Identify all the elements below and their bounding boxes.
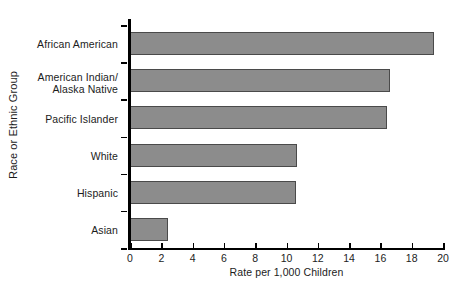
x-tick-label-2: 2 xyxy=(148,252,174,264)
x-tick-label-16: 16 xyxy=(367,252,393,264)
x-axis-title: Rate per 1,000 Children xyxy=(130,266,443,278)
category-label-asian: Asian xyxy=(20,224,118,236)
bar-white xyxy=(130,144,297,167)
x-tick-label-6: 6 xyxy=(211,252,237,264)
bar-african-american xyxy=(130,32,434,55)
x-tick-14 xyxy=(349,243,351,248)
bar-chart-figure: Race or Ethnic Group African American Am… xyxy=(0,0,475,293)
category-label-american-indian-line1: American Indian/ xyxy=(20,71,118,83)
x-tick-8 xyxy=(255,243,257,248)
y-tick-0 xyxy=(121,25,127,27)
bar-american-indian-alaska-native xyxy=(130,69,390,92)
x-axis-line xyxy=(128,248,445,251)
y-tick-6 xyxy=(121,248,127,250)
plot-area xyxy=(130,25,443,248)
x-tick-0 xyxy=(130,243,132,248)
bar-asian xyxy=(130,218,168,241)
x-tick-label-14: 14 xyxy=(336,252,362,264)
x-tick-label-0: 0 xyxy=(117,252,143,264)
x-tick-6 xyxy=(224,243,226,248)
x-tick-label-4: 4 xyxy=(180,252,206,264)
category-label-white: White xyxy=(20,150,118,162)
y-tick-3 xyxy=(121,137,127,139)
y-tick-2 xyxy=(121,99,127,101)
x-tick-10 xyxy=(287,243,289,248)
x-tick-label-8: 8 xyxy=(242,252,268,264)
x-tick-label-10: 10 xyxy=(274,252,300,264)
x-tick-12 xyxy=(318,243,320,248)
y-axis-title-text: Race or Ethnic Group xyxy=(7,71,19,179)
x-tick-2 xyxy=(161,243,163,248)
x-tick-label-20: 20 xyxy=(430,252,456,264)
bar-hispanic xyxy=(130,181,296,204)
category-label-hispanic: Hispanic xyxy=(20,187,118,199)
x-tick-label-12: 12 xyxy=(305,252,331,264)
category-label-pacific-islander: Pacific Islander xyxy=(20,113,118,125)
y-tick-1 xyxy=(121,62,127,64)
category-axis-labels: African American American Indian/ Alaska… xyxy=(20,25,118,248)
y-axis-line xyxy=(128,19,131,250)
x-tick-18 xyxy=(412,243,414,248)
y-tick-4 xyxy=(121,174,127,176)
category-label-african-american: African American xyxy=(20,38,118,50)
x-tick-16 xyxy=(380,243,382,248)
category-label-american-indian-line2: Alaska Native xyxy=(20,83,118,95)
bar-pacific-islander xyxy=(130,106,387,129)
x-tick-20 xyxy=(443,243,445,248)
x-tick-4 xyxy=(193,243,195,248)
y-tick-5 xyxy=(121,211,127,213)
x-tick-label-18: 18 xyxy=(399,252,425,264)
